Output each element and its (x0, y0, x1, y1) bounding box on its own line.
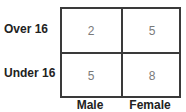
column-label-female: Female (120, 98, 180, 112)
row-label-under-16: Under 16 (4, 66, 55, 80)
column-label-male: Male (60, 98, 120, 112)
cell-over16-female: 5 (123, 9, 181, 52)
two-way-table: 2 5 5 8 (60, 7, 181, 98)
row-label-over-16: Over 16 (4, 22, 48, 36)
row-divider (62, 52, 179, 54)
cell-under16-male: 5 (62, 54, 120, 97)
cell-under16-female: 8 (123, 54, 181, 97)
cell-over16-male: 2 (62, 9, 120, 52)
